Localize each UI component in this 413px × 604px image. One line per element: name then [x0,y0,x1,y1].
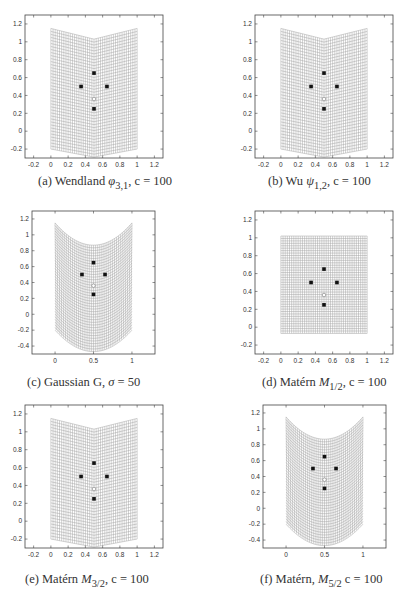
plot-f: 00.51-0.4-0.200.20.40.60.811.2 [0,0,413,604]
center-marker [323,478,327,482]
y-tick-label: 1 [256,425,260,432]
data-point [323,487,327,491]
y-tick-label: 0.6 [251,457,260,464]
y-tick-label: 1.2 [251,409,260,416]
x-tick-label: 0 [284,551,288,558]
x-tick-label: 0.5 [320,551,329,558]
y-tick-label: -0.4 [249,536,261,543]
y-tick-label: -0.2 [249,520,261,527]
y-tick-label: 0.8 [251,441,260,448]
data-point [323,455,327,459]
caption-f: (f) Matérn, M5/2 c = 100 [260,572,382,589]
x-tick-label: 1 [361,551,365,558]
panel-f: 00.51-0.4-0.200.20.40.60.811.2 (f) Matér… [0,0,413,604]
y-tick-label: 0 [256,505,260,512]
data-point [334,467,338,471]
y-tick-label: 0.2 [251,489,260,496]
y-tick-label: 0.4 [251,473,260,480]
data-point [311,467,315,471]
